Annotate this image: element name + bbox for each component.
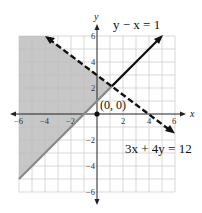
inequality-graph: x y −6 −4 −2 2 4 6 6 4 2 −2 −4 −6 (0, 0)… — [0, 0, 202, 213]
svg-text:2: 2 — [91, 83, 95, 93]
equation-label-dashed: 3x + 4y = 12 — [125, 141, 192, 156]
svg-text:−6: −6 — [14, 116, 23, 126]
svg-text:6: 6 — [91, 31, 95, 41]
svg-text:−4: −4 — [86, 161, 96, 171]
svg-text:2: 2 — [121, 116, 125, 126]
svg-text:6: 6 — [172, 116, 176, 126]
y-axis-label: y — [93, 11, 99, 22]
test-point-label: (0, 0) — [100, 98, 126, 112]
svg-text:−6: −6 — [86, 187, 95, 197]
svg-text:−4: −4 — [40, 116, 50, 126]
shaded-solution-region — [19, 36, 112, 179]
x-axis-label: x — [189, 108, 195, 119]
test-point-dot — [94, 111, 99, 116]
svg-text:−2: −2 — [86, 135, 95, 145]
equation-label-solid: y − x = 1 — [113, 17, 160, 32]
